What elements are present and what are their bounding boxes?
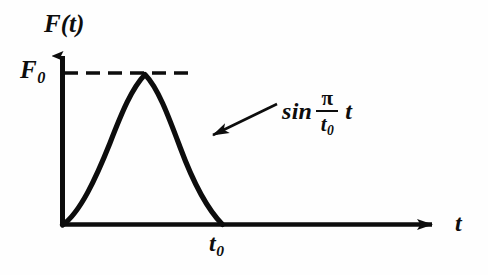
- curve-formula-annotation: sin π t0 t: [282, 86, 352, 138]
- sine-pulse-curve: [63, 75, 223, 226]
- formula-fraction-bar: [316, 110, 338, 112]
- force-pulse-figure: F(t) F0 t0 t sin π t0 t: [0, 0, 488, 275]
- formula-denominator: t0: [318, 113, 337, 139]
- x-axis-tick-t0: t0: [209, 231, 224, 259]
- formula-denominator-subscript: 0: [327, 123, 334, 138]
- formula-denominator-symbol: t: [321, 112, 327, 136]
- formula-argument-variable: t: [345, 98, 352, 125]
- annotation-pointer-arrow: [213, 104, 277, 135]
- x-axis-tick-t0-subscript: 0: [216, 242, 224, 259]
- formula-numerator-pi: π: [319, 87, 337, 109]
- figure-canvas: [0, 0, 488, 275]
- x-axis-label: t: [455, 211, 462, 235]
- formula-fraction: π t0: [316, 87, 338, 139]
- y-axis-tick-f0: F0: [20, 57, 45, 86]
- x-axis-tick-t0-symbol: t: [209, 230, 216, 256]
- y-axis-tick-f0-symbol: F: [20, 56, 37, 83]
- formula-sin-function: sin: [282, 98, 312, 125]
- y-axis-tick-f0-subscript: 0: [37, 69, 46, 87]
- y-axis-label: F(t): [44, 11, 84, 36]
